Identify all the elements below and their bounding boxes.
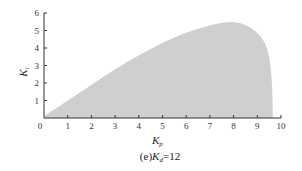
stable-region-area: [44, 22, 273, 118]
y-tick-label: 2: [35, 78, 40, 88]
y-tick-label: 1: [35, 96, 40, 106]
x-tick-label: 0: [38, 121, 43, 131]
chart-caption: (e)Kd=12: [140, 150, 180, 164]
x-tick-label: 10: [277, 121, 287, 131]
chart: 012345678910 123456 Ki Kp (e)Kd=12: [0, 0, 302, 171]
x-axis-label: Kp: [151, 134, 163, 148]
y-axis-ticks: 123456: [35, 8, 48, 106]
x-tick-label: 5: [160, 121, 165, 131]
y-tick-label: 6: [35, 8, 40, 18]
y-tick-label: 4: [35, 43, 40, 53]
x-tick-label: 6: [184, 121, 189, 131]
x-tick-label: 3: [113, 121, 118, 131]
x-tick-label: 7: [208, 121, 213, 131]
y-axis-label: Ki: [17, 67, 31, 77]
x-tick-label: 9: [255, 121, 260, 131]
x-tick-label: 2: [89, 121, 94, 131]
x-tick-label: 4: [137, 121, 142, 131]
x-tick-label: 1: [65, 121, 70, 131]
y-tick-label: 3: [35, 61, 40, 71]
x-tick-label: 8: [231, 121, 236, 131]
y-tick-label: 5: [35, 26, 40, 36]
